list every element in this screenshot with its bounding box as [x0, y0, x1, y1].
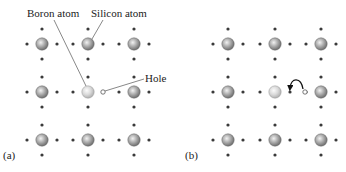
electron-dot: [226, 153, 229, 156]
electron-dot: [319, 105, 322, 108]
hole: [303, 90, 307, 94]
electron-dot: [258, 42, 261, 45]
electron-dot: [319, 153, 322, 156]
boron-doped-silicon-diagram: Boron atom Silicon atom Hole (a) (b): [0, 0, 346, 172]
electron-dot: [273, 27, 276, 30]
electron-dot: [117, 138, 120, 141]
silicon-atom: [222, 38, 234, 50]
silicon-atom: [315, 86, 327, 98]
electron-dot: [304, 138, 307, 141]
electron-dot: [25, 138, 28, 141]
electron-dot: [40, 27, 43, 30]
electron-dot: [25, 90, 28, 93]
silicon-atom: [82, 38, 94, 50]
electron-dot: [147, 90, 150, 93]
boron-leader-line: [54, 20, 86, 86]
silicon-atom: [128, 134, 140, 146]
electron-dot: [258, 138, 261, 141]
curved-arrow-icon: [290, 80, 303, 89]
electron-dot: [86, 27, 89, 30]
electron-dot: [319, 123, 322, 126]
electron-dot: [211, 90, 214, 93]
silicon-atom: [269, 38, 281, 50]
electron-dot: [226, 105, 229, 108]
electron-dot: [71, 42, 74, 45]
silicon-atom: [269, 134, 281, 146]
electron-dot: [147, 42, 150, 45]
panel-b: [211, 27, 337, 156]
panel-b-label: (b): [185, 149, 198, 162]
panel-a-label: (a): [3, 149, 16, 162]
electron-dot: [147, 138, 150, 141]
electron-dot: [132, 153, 135, 156]
silicon-atom: [222, 134, 234, 146]
electron-dot: [226, 27, 229, 30]
silicon-atom: [128, 38, 140, 50]
electron-dot: [241, 42, 244, 45]
electron-dot: [211, 42, 214, 45]
electron-dot: [288, 42, 291, 45]
silicon-atom: [128, 86, 140, 98]
electron-dot: [55, 138, 58, 141]
electron-dot: [71, 138, 74, 141]
electron-dot: [319, 75, 322, 78]
electron-dot: [273, 57, 276, 60]
electron-dot: [288, 90, 291, 93]
electron-dot: [101, 42, 104, 45]
panel-a: [25, 27, 150, 156]
silicon-atom: [222, 86, 234, 98]
electron-dot: [334, 42, 337, 45]
silicon-atom: [315, 38, 327, 50]
electron-dot: [226, 75, 229, 78]
electron-dot: [132, 123, 135, 126]
electron-dot: [273, 153, 276, 156]
electron-dot: [304, 42, 307, 45]
electron-dot: [86, 57, 89, 60]
electron-dot: [117, 90, 120, 93]
silicon-atom: [315, 134, 327, 146]
electron-dot: [132, 57, 135, 60]
electron-dot: [86, 123, 89, 126]
electron-dot: [273, 75, 276, 78]
electron-dot: [241, 90, 244, 93]
silicon-atom: [82, 134, 94, 146]
electron-dot: [86, 105, 89, 108]
electron-dot: [334, 138, 337, 141]
electron-dot: [71, 90, 74, 93]
electron-dot: [211, 138, 214, 141]
silicon-atom: [36, 134, 48, 146]
silicon-leader-line: [92, 20, 103, 39]
electron-dot: [226, 123, 229, 126]
electron-dot: [132, 27, 135, 30]
electron-dot: [117, 42, 120, 45]
electron-dot: [258, 90, 261, 93]
electron-dot: [226, 57, 229, 60]
electron-dot: [273, 105, 276, 108]
electron-dot: [40, 57, 43, 60]
electron-dot: [334, 90, 337, 93]
electron-dot: [132, 75, 135, 78]
electron-dot: [319, 57, 322, 60]
electron-dot: [40, 123, 43, 126]
electron-dot: [132, 105, 135, 108]
boron-atom: [269, 86, 281, 98]
electron-dot: [25, 42, 28, 45]
silicon-atom-label: Silicon atom: [91, 7, 147, 19]
electron-dot: [288, 138, 291, 141]
electron-dot: [319, 27, 322, 30]
electron-dot: [86, 75, 89, 78]
electron-dot: [40, 153, 43, 156]
electron-dot: [40, 105, 43, 108]
electron-dot: [273, 123, 276, 126]
silicon-atom: [36, 38, 48, 50]
electron-dot: [55, 42, 58, 45]
boron-atom: [82, 86, 94, 98]
electron-dot: [86, 153, 89, 156]
electron-dot: [241, 138, 244, 141]
hole: [101, 90, 105, 94]
electron-dot: [55, 90, 58, 93]
electron-dot: [40, 75, 43, 78]
silicon-atom: [36, 86, 48, 98]
boron-atom-label: Boron atom: [27, 7, 80, 19]
electron-dot: [101, 138, 104, 141]
